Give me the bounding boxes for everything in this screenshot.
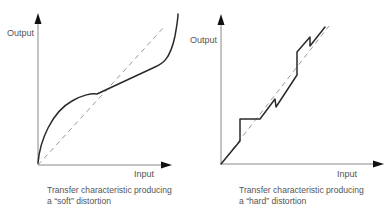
soft-y-axis-arrow-icon (35, 13, 42, 24)
soft-x-axis-arrow-icon (161, 162, 172, 169)
hard-x-axis-label: Input (337, 169, 357, 180)
soft-x-axis-label: Input (134, 169, 154, 180)
hard-caption-line1: Transfer characteristic producing (239, 185, 364, 196)
hard-y-axis-arrow-icon (218, 14, 225, 25)
hard-y-axis-label: Output (190, 35, 217, 46)
soft-caption-line1: Transfer characteristic producing (47, 185, 172, 196)
soft-distortion-panel (35, 13, 179, 169)
soft-y-axis-label: Output (7, 28, 34, 39)
distortion-diagram (0, 0, 391, 213)
hard-distortion-panel (218, 14, 385, 168)
hard-caption-line2: a “hard” distortion (239, 196, 306, 207)
hard-x-axis-arrow-icon (373, 161, 384, 168)
soft-transfer-curve (38, 14, 178, 163)
soft-reference-line (38, 26, 165, 165)
hard-transfer-curve (221, 27, 325, 164)
soft-caption-line2: a “soft” distortion (47, 196, 111, 207)
